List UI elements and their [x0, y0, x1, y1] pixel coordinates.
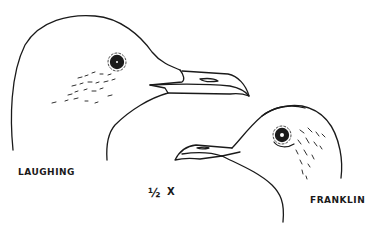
franklin-eye: [273, 126, 294, 147]
franklin-label: FRANKLIN: [310, 195, 365, 205]
franklin-streaks: [296, 128, 325, 179]
laughing-label: LAUGHING: [18, 167, 75, 177]
laughing-bill: [168, 71, 249, 96]
scale-label: ½X: [148, 186, 175, 200]
laughing-speckles: [52, 72, 115, 103]
scale-x: X: [167, 186, 175, 197]
laughing-eye: [108, 53, 126, 71]
scale-fraction: ½: [148, 186, 161, 200]
laughing-gull-head: [11, 16, 249, 160]
